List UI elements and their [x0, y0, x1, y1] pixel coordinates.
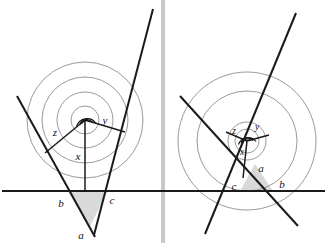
left-label-y: y	[102, 114, 108, 126]
right-label-z: z	[231, 126, 236, 136]
left-label-a: a	[78, 229, 84, 241]
geometry-figure: z y x b c a z y x a c b	[0, 0, 327, 243]
left-label-b: b	[58, 197, 64, 209]
vertical-divider	[161, 0, 165, 243]
right-label-b: b	[279, 178, 285, 190]
left-label-c: c	[110, 194, 115, 206]
left-label-x: x	[75, 150, 81, 162]
right-label-x: x	[239, 147, 245, 157]
right-label-a: a	[258, 162, 264, 174]
left-label-z: z	[52, 126, 58, 138]
right-label-y: y	[254, 122, 260, 132]
